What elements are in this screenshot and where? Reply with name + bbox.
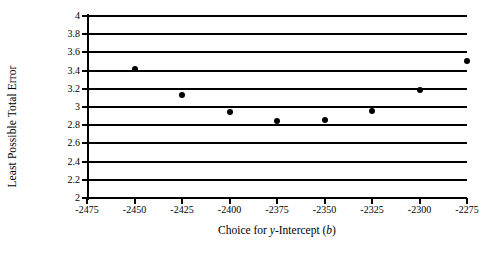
data-point [227,109,233,115]
y-axis-tick [82,88,87,90]
y-axis-tick-label: 3.8 [40,29,80,39]
y-axis-tick [82,106,87,108]
y-axis-tick-label: 2.4 [40,157,80,167]
gridline [87,124,467,126]
y-axis-tick-label: 3.4 [40,66,80,76]
y-axis-tick-label: 2.2 [40,175,80,185]
gridline [87,106,467,108]
y-axis-tick-label: 3 [40,102,80,112]
gridline [87,70,467,72]
gridline [87,51,467,53]
y-axis-tick [82,142,87,144]
y-axis-tick [82,15,87,17]
y-axis-tick [82,161,87,163]
data-point [132,66,138,72]
y-axis-tick-labels: 22.22.42.62.833.23.43.63.84 [36,0,80,253]
y-axis-tick-label: 2.6 [40,138,80,148]
x-axis-tick-label: -2275 [437,205,497,215]
y-axis-tick [82,70,87,72]
y-axis-tick-label: 4 [40,11,80,21]
gridline [87,33,467,35]
gridline [87,88,467,90]
y-axis-tick-label: 2 [40,193,80,203]
y-axis-title: Least Possible Total Error [2,0,22,253]
gridline [87,179,467,181]
plot-area [87,16,467,198]
data-point [179,92,185,98]
y-axis-tick-label: 3.2 [40,84,80,94]
y-axis-tick-label: 3.6 [40,47,80,57]
scatter-chart-figure: Least Possible Total Error 22.22.42.62.8… [0,0,501,253]
data-point [417,87,423,93]
y-axis-tick-label: 2.8 [40,120,80,130]
gridline [87,15,467,17]
data-point [274,118,280,124]
y-axis-tick [82,51,87,53]
gridline [87,142,467,144]
x-axis-title: Choice for y-Intercept (b) [87,224,467,236]
y-axis-tick [82,179,87,181]
data-point [369,108,375,114]
gridline [87,161,467,163]
data-point [322,117,328,123]
y-axis-tick [82,124,87,126]
data-point [464,58,470,64]
y-axis-tick [82,33,87,35]
